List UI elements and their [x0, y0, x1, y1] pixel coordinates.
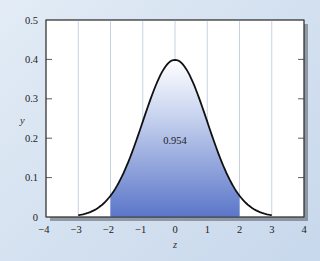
x-tick-label: 2	[237, 224, 242, 235]
normal-distribution-chart: 00.10.20.30.40.5 −4−3−2−101234 y z 0.954	[0, 0, 320, 261]
x-tick-label: 4	[301, 224, 307, 235]
y-tick-label: 0.2	[25, 133, 38, 144]
y-axis-label: y	[19, 115, 25, 126]
y-tick-label: 0	[33, 212, 38, 223]
x-tick-label: −2	[103, 224, 114, 235]
x-axis-ticks: −4−3−2−101234	[38, 224, 307, 235]
x-tick-label: 3	[269, 224, 274, 235]
y-tick-label: 0.5	[25, 15, 38, 26]
x-tick-label: −3	[71, 224, 82, 235]
y-tick-label: 0.4	[25, 54, 39, 65]
y-tick-label: 0.1	[25, 172, 38, 183]
x-tick-label: 1	[205, 224, 210, 235]
area-annotation: 0.954	[163, 135, 187, 146]
y-tick-label: 0.3	[25, 93, 38, 104]
x-tick-label: −4	[38, 224, 50, 235]
x-axis-label: z	[172, 239, 177, 250]
x-tick-label: −1	[135, 224, 146, 235]
x-tick-label: 0	[172, 224, 177, 235]
